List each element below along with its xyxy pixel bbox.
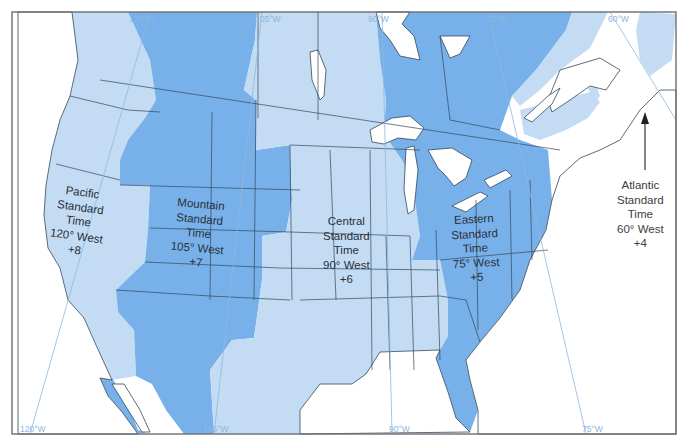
zone-offset: +5: [453, 269, 500, 286]
zone-name: Central: [323, 214, 370, 229]
atlantic-zone-label: Atlantic Standard Time 60° West +4: [617, 178, 664, 251]
zone-meridian: 60° West: [617, 222, 664, 237]
zone-time: Time: [617, 207, 664, 222]
zone-standard: Standard: [617, 193, 664, 208]
meridian-label-bottom-120: 120°W: [20, 424, 46, 434]
meridian-label-top-120: 120°W: [129, 14, 155, 24]
meridian-label-bottom-105: 105°W: [203, 424, 229, 434]
meridian-label-top-75: 75°W: [487, 14, 508, 24]
zone-name: Atlantic: [617, 178, 664, 193]
zone-standard: Standard: [451, 225, 498, 242]
zone-meridian: 75° West: [452, 254, 499, 271]
zone-meridian: 90° West: [323, 258, 370, 273]
zone-time: Time: [323, 243, 370, 258]
eastern-zone-label: Eastern Standard Time 75° West +5: [450, 211, 500, 286]
meridian-label-top-60: 60°W: [608, 14, 629, 24]
central-zone-label: Central Standard Time 90° West +6: [323, 214, 370, 287]
meridian-label-bottom-75: 75°W: [582, 424, 603, 434]
zone-offset: +4: [617, 236, 664, 251]
mountain-zone-label: Mountain Standard Time 105° West +7: [169, 195, 228, 272]
meridian-label-top-105: 105°W: [255, 14, 281, 24]
pacific-zone-label: Pacific Standard Time 120° West +8: [47, 182, 110, 261]
meridian-label-bottom-90: 90°W: [389, 424, 410, 434]
zone-offset: +6: [323, 272, 370, 287]
zone-standard: Standard: [323, 229, 370, 244]
meridian-label-top-90: 90°W: [368, 14, 389, 24]
